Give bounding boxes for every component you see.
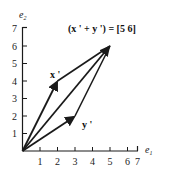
x-tick-label-2: 2: [55, 156, 60, 167]
y-tick-label-5: 5: [12, 58, 17, 69]
label-y-prime: y ': [82, 119, 93, 130]
label-x-prime: x ': [50, 69, 61, 80]
vector-sum: [23, 47, 110, 151]
y-ticks: [23, 46, 28, 134]
y-tick-label-1: 1: [12, 128, 17, 139]
x-tick-label-5: 5: [108, 156, 113, 167]
y-tick-label-2: 2: [12, 111, 17, 122]
axes: [23, 27, 139, 151]
x-axis-label: e1: [145, 144, 152, 156]
x-tick-label-3: 3: [73, 156, 78, 167]
y-axis-label: e2: [19, 9, 26, 21]
sum-equation: (x ' + y ') = [5 6]: [68, 23, 136, 35]
y-tick-label-6: 6: [12, 41, 17, 52]
x-tick-label-4: 4: [90, 156, 95, 167]
x-tick-label-6: 6: [125, 156, 130, 167]
y-tick-label-3: 3: [12, 93, 17, 104]
x-tick-label-7: 7: [135, 156, 140, 167]
y-tick-label-4: 4: [12, 76, 17, 87]
vector-diagram: 1 2 3 4 5 6 7 1 2 3 4 5 6 7 e2 e1 x ' y …: [0, 0, 170, 176]
y-tick-label-7: 7: [12, 23, 17, 34]
x-tick-label-1: 1: [38, 156, 43, 167]
vectors: [23, 47, 110, 151]
